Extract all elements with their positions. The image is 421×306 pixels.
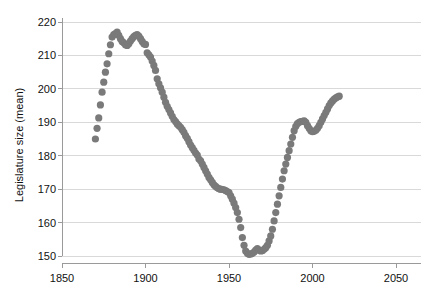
data-point bbox=[92, 135, 99, 142]
data-point bbox=[284, 154, 291, 161]
data-point bbox=[336, 93, 343, 100]
data-point bbox=[282, 160, 289, 167]
y-tick-label: 160 bbox=[26, 217, 56, 229]
data-point bbox=[95, 114, 102, 121]
y-tick-label: 220 bbox=[26, 16, 56, 28]
data-point bbox=[98, 89, 105, 96]
data-point bbox=[107, 41, 114, 48]
y-axis-title: Legislature size (mean) bbox=[13, 70, 25, 220]
data-point bbox=[142, 41, 149, 48]
x-tick-label: 1950 bbox=[217, 272, 241, 284]
y-tick-label: 180 bbox=[26, 150, 56, 162]
y-tick-label: 150 bbox=[26, 250, 56, 262]
data-point bbox=[105, 50, 112, 57]
data-point bbox=[103, 60, 110, 67]
x-tick-label: 1850 bbox=[50, 272, 74, 284]
data-point bbox=[277, 184, 284, 191]
data-point bbox=[286, 147, 293, 154]
data-point bbox=[274, 201, 281, 208]
data-point bbox=[281, 167, 288, 174]
tick-marks bbox=[58, 22, 396, 268]
data-point bbox=[235, 216, 242, 223]
data-point bbox=[289, 134, 296, 141]
data-point bbox=[102, 69, 109, 76]
data-point bbox=[93, 125, 100, 132]
data-point bbox=[97, 101, 104, 108]
x-tick-label: 2000 bbox=[300, 272, 324, 284]
x-tick-label: 2050 bbox=[384, 272, 408, 284]
data-point bbox=[270, 217, 277, 224]
data-point bbox=[279, 176, 286, 183]
y-tick-label: 200 bbox=[26, 83, 56, 95]
data-point bbox=[237, 224, 244, 231]
data-point bbox=[287, 140, 294, 147]
y-tick-label: 190 bbox=[26, 116, 56, 128]
data-point bbox=[267, 232, 274, 239]
data-point bbox=[276, 192, 283, 199]
x-tick-label: 1900 bbox=[133, 272, 157, 284]
plot-area bbox=[0, 0, 421, 306]
data-point bbox=[152, 67, 159, 74]
y-tick-label: 170 bbox=[26, 183, 56, 195]
scatter-chart: 1501601701801902002102201850190019502000… bbox=[0, 0, 421, 306]
data-point bbox=[239, 234, 246, 241]
data-point bbox=[234, 209, 241, 216]
data-points bbox=[92, 28, 343, 258]
data-point bbox=[272, 209, 279, 216]
y-tick-label: 210 bbox=[26, 49, 56, 61]
data-point bbox=[269, 226, 276, 233]
data-point bbox=[100, 79, 107, 86]
